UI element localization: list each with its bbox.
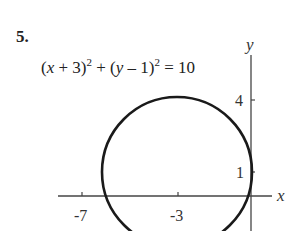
x-axis-label: x: [276, 186, 285, 205]
circle-plot: -7 -3 4 1 x y: [0, 0, 293, 231]
x-tick-label: -3: [170, 207, 183, 224]
y-tick-label: 4: [235, 92, 243, 109]
y-tick-label: 1: [236, 164, 244, 181]
x-tick-label: -7: [74, 207, 87, 224]
y-axis-label: y: [244, 35, 254, 54]
